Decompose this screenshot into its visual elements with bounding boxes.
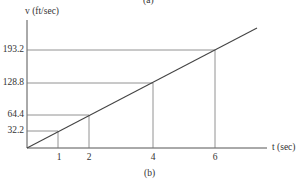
- x-axis-label: t (sec): [272, 142, 295, 152]
- x-tick-6: 6: [210, 152, 220, 162]
- velocity-line: [27, 28, 257, 148]
- y-tick-193-2: 193.2: [0, 44, 24, 54]
- x-tick-2: 2: [84, 152, 94, 162]
- figure-caption: (b): [144, 168, 155, 178]
- y-tick-64-4: 64.4: [0, 109, 24, 119]
- y-tick-32-2: 32.2: [0, 125, 24, 135]
- x-tick-4: 4: [148, 152, 158, 162]
- y-axis-label: v (ft/sec): [25, 6, 59, 16]
- x-tick-1: 1: [54, 152, 64, 162]
- top-caption: (a): [143, 0, 154, 5]
- y-tick-128-8: 128.8: [0, 77, 24, 87]
